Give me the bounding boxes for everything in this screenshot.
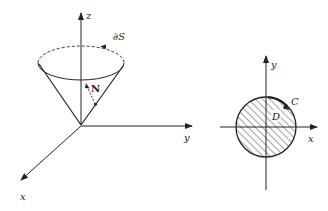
cone-figure: z y x ∂S N bbox=[20, 10, 192, 202]
region-label: D bbox=[271, 111, 280, 122]
disk-y-axis-label: y bbox=[270, 59, 277, 70]
disk-x-axis-label: x bbox=[308, 133, 314, 144]
boundary-label: ∂S bbox=[113, 31, 125, 42]
y-axis-label: y bbox=[183, 132, 190, 143]
normal-base-point bbox=[94, 103, 97, 106]
curve-label: C bbox=[291, 96, 299, 107]
cone-edge-right bbox=[81, 66, 123, 125]
disk-figure: x y C D bbox=[220, 56, 317, 190]
z-axis-label: z bbox=[85, 10, 92, 21]
normal-arrowhead-icon bbox=[85, 83, 90, 89]
x-axis bbox=[21, 126, 81, 180]
x-axis-label: x bbox=[20, 191, 26, 202]
diagram-canvas: z y x ∂S N x y C bbox=[0, 0, 328, 211]
normal-label: N bbox=[91, 83, 100, 94]
cone-edge-left bbox=[39, 64, 81, 125]
